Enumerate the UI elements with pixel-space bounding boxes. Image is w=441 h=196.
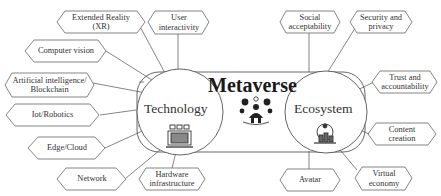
node-virtual-economy[interactable]: Virtualeconomy <box>359 167 409 190</box>
node-xr[interactable]: Extended Reality(XR) <box>62 11 140 33</box>
node-ai-blockchain[interactable]: Artificial intelligence/Blockchain <box>8 73 91 97</box>
diagram-title: Metaverse <box>208 74 297 97</box>
node-avatar[interactable]: Avatar <box>284 169 336 191</box>
node-user-interactivity[interactable]: Userinteractivity <box>152 11 206 34</box>
connector-iot-robotics <box>100 110 136 115</box>
node-hardware[interactable]: Hardwareinfrastructure <box>142 168 202 190</box>
node-security[interactable]: Security andprivacy <box>353 11 409 33</box>
node-iot-robotics[interactable]: Iot/Robotics <box>10 104 95 126</box>
connector-computer-vision <box>106 51 152 80</box>
node-computer-vision[interactable]: Computer vision <box>30 40 102 62</box>
technology-hub-label: Technology <box>144 101 208 117</box>
node-edge-cloud[interactable]: Edge/Cloud <box>32 137 102 159</box>
node-social[interactable]: Socialacceptability <box>283 11 337 33</box>
people-network-icon <box>240 97 273 125</box>
node-network[interactable]: Network <box>61 168 123 190</box>
node-trust[interactable]: Trust andaccountability <box>376 71 434 93</box>
ecosystem-hub-label: Ecosystem <box>294 101 353 117</box>
node-content[interactable]: Contentcreation <box>372 123 432 145</box>
